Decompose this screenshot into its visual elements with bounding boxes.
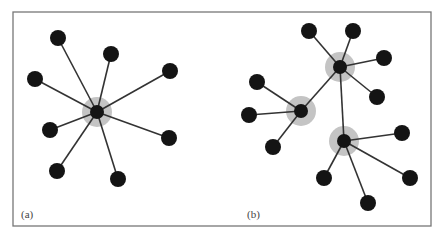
- nodes-group: [27, 30, 178, 187]
- leaf-edge: [97, 112, 169, 138]
- network-figure: (a) (b): [0, 0, 444, 240]
- panel-b-multi-hub-network: [241, 23, 418, 211]
- leaf-node: [376, 50, 392, 66]
- panel-a-label: (a): [21, 208, 34, 221]
- leaf-node: [241, 107, 257, 123]
- leaf-edge: [344, 141, 410, 178]
- hub-node: [90, 105, 104, 119]
- leaf-node: [49, 163, 65, 179]
- leaf-node: [402, 170, 418, 186]
- leaf-node: [360, 195, 376, 211]
- leaf-node: [345, 23, 361, 39]
- leaf-node: [394, 125, 410, 141]
- leaf-node: [265, 139, 281, 155]
- leaf-node: [27, 71, 43, 87]
- leaf-node: [103, 46, 119, 62]
- hub-node: [333, 60, 347, 74]
- leaf-node: [162, 63, 178, 79]
- leaf-node: [110, 171, 126, 187]
- leaf-node: [249, 74, 265, 90]
- leaf-node: [42, 122, 58, 138]
- leaf-edge: [97, 71, 170, 112]
- figure-frame: [13, 12, 431, 226]
- hub-node: [337, 134, 351, 148]
- leaf-node: [161, 130, 177, 146]
- hub-link-edge: [301, 67, 340, 111]
- leaf-node: [50, 30, 66, 46]
- leaf-node: [369, 89, 385, 105]
- leaf-edge: [344, 141, 368, 203]
- panel-a-star-network: [27, 30, 178, 187]
- nodes-group: [241, 23, 418, 211]
- hub-node: [294, 104, 308, 118]
- leaf-node: [316, 170, 332, 186]
- panel-b-label: (b): [247, 208, 260, 221]
- leaf-node: [301, 23, 317, 39]
- leaf-edge: [57, 112, 97, 171]
- network-diagram-canvas: (a) (b): [0, 0, 444, 240]
